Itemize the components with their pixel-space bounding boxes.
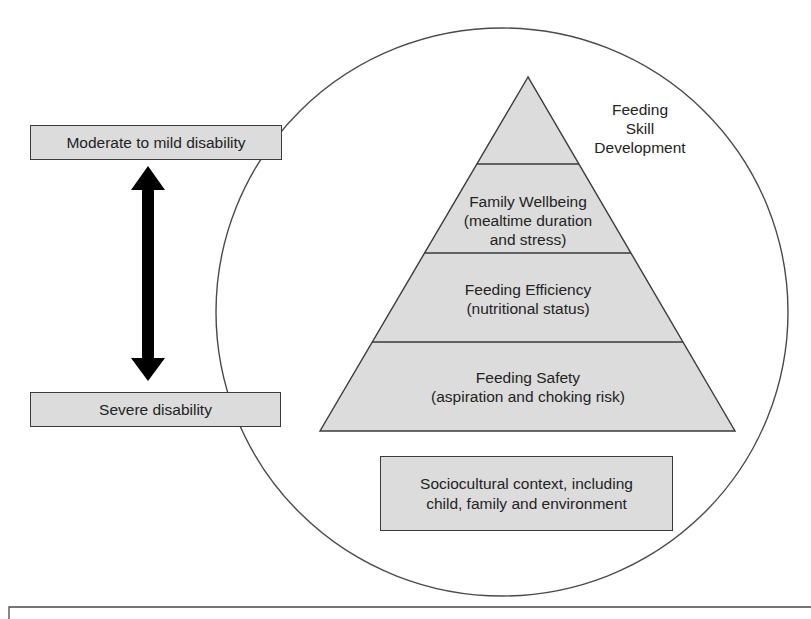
moderate-mild-disability-label: Moderate to mild disability (66, 133, 245, 153)
severe-disability-box: Severe disability (30, 392, 281, 427)
feeding-skill-development-label: Feeding Skill Development (580, 100, 700, 157)
double-arrow-icon (131, 166, 165, 381)
moderate-mild-disability-box: Moderate to mild disability (30, 125, 282, 160)
family-wellbeing-label: Family Wellbeing (mealtime duration and … (418, 192, 638, 249)
feeding-efficiency-label: Feeding Efficiency (nutritional status) (398, 280, 658, 318)
sociocultural-context-box: Sociocultural context, including child, … (380, 456, 673, 531)
feeding-safety-label: Feeding Safety (aspiration and choking r… (378, 368, 678, 406)
severe-disability-label: Severe disability (99, 400, 212, 420)
bottom-frame (9, 607, 811, 619)
